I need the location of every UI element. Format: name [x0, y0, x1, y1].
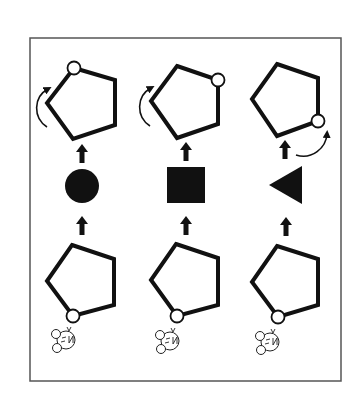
creature-icon [256, 329, 280, 355]
column-2 [140, 66, 225, 354]
rotation-arrow-icon [140, 88, 151, 126]
vertex-marker [312, 115, 325, 128]
up-arrow-icon [279, 140, 291, 159]
up-arrow-icon [180, 142, 192, 161]
up-arrow-icon [76, 144, 88, 163]
circle-shape [65, 169, 99, 203]
creature-icon [52, 327, 76, 353]
triangle-shape [269, 166, 302, 204]
diagram-svg [0, 0, 357, 397]
rotation-arrow-icon [37, 89, 48, 127]
frame [30, 38, 341, 381]
diagram-stage [0, 0, 357, 397]
bottom-pentagon [47, 245, 114, 316]
vertex-marker [212, 74, 225, 87]
bottom-pentagon [151, 244, 218, 316]
rotation-arrow-icon [296, 134, 327, 156]
vertex-marker [67, 310, 80, 323]
creature-icon [156, 328, 180, 354]
square-shape [167, 167, 205, 203]
up-arrow-icon [76, 216, 88, 235]
bottom-pentagon [252, 246, 318, 317]
vertex-marker [68, 62, 81, 75]
vertex-marker [171, 310, 184, 323]
column-3 [252, 64, 327, 355]
up-arrow-icon [180, 216, 192, 235]
column-1 [37, 62, 115, 353]
up-arrow-icon [280, 217, 292, 236]
vertex-marker [272, 311, 285, 324]
top-pentagon [252, 64, 318, 136]
top-pentagon [151, 66, 218, 138]
top-pentagon [47, 68, 115, 139]
